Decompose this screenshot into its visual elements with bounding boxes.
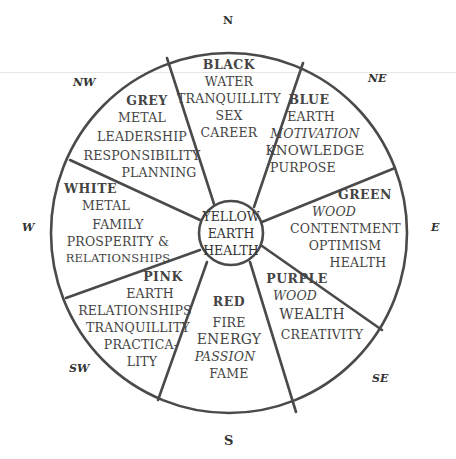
sector-aspect: CREATIVITY (272, 326, 372, 343)
sector-aspect: RESPONSIBILITY (76, 147, 208, 164)
compass-ne: NE (368, 72, 386, 85)
center-element: EARTH (196, 225, 266, 242)
sector-aspect: PURPOSE (238, 159, 368, 176)
sector-aspect: OPTIMISM (292, 237, 398, 254)
sector-aspect: TRANQUILLITY (76, 319, 200, 336)
compass-s: S (224, 433, 233, 448)
sector-w: WHITE METAL FAMILY PROSPERITY & RELATION… (58, 180, 178, 267)
sector-color: GREEN (332, 186, 398, 203)
sector-aspect: FAMILY (58, 216, 178, 233)
sector-aspect: MOTIVATION (262, 125, 368, 142)
sector-sw: PINK EARTH RELATIONSHIPS TRANQUILLITY PR… (70, 268, 200, 370)
sector-color: BLUE (250, 91, 368, 108)
sector-aspect: PRACTICA- (82, 336, 200, 353)
center-yellow: YELLOW EARTH HEALTH (196, 208, 266, 259)
sector-aspect: CONTENTMENT (290, 220, 398, 237)
sector-nw: GREY METAL LEADERSHIP RESPONSIBILITY PLA… (76, 92, 208, 181)
sector-aspect: LITY (84, 353, 200, 370)
sector-aspect: RELATIONSHIPS (70, 302, 200, 319)
sector-aspect: KNOWLEDGE (262, 142, 368, 159)
sector-aspect: PLANNING (110, 164, 208, 181)
sector-color: GREY (86, 92, 208, 109)
center-color: YELLOW (196, 208, 266, 225)
sector-e: GREEN WOOD CONTENTMENT OPTIMISM HEALTH (278, 186, 398, 271)
sector-aspect: RELATIONSHIPS (58, 250, 178, 267)
sector-color: PINK (126, 268, 200, 285)
center-aspect: HEALTH (196, 242, 266, 259)
sector-color: PURPLE (222, 270, 372, 287)
compass-n: N (223, 14, 233, 27)
sector-color: BLACK (176, 56, 282, 73)
sector-color: WHITE (64, 180, 178, 197)
sector-element: WATER (176, 73, 282, 90)
compass-se: SE (372, 372, 388, 385)
compass-nw: NW (73, 76, 95, 89)
sector-element: METAL (76, 109, 208, 126)
sector-element: EARTH (254, 108, 368, 125)
compass-w: W (22, 221, 34, 234)
sector-aspect: LEADERSHIP (76, 128, 208, 145)
sector-element: WOOD (270, 203, 398, 220)
sector-aspect: PROSPERITY & (58, 233, 178, 250)
sector-element: EARTH (100, 285, 200, 302)
compass-e: E (431, 221, 439, 234)
sector-aspect: HEALTH (318, 254, 398, 271)
sector-element: METAL (82, 197, 178, 214)
sector-ne: BLUE EARTH MOTIVATION KNOWLEDGE PURPOSE (262, 91, 368, 176)
